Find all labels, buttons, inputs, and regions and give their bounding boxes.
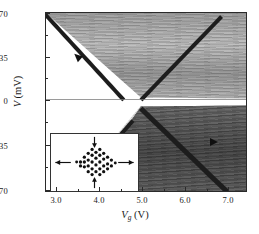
- y-axis-title: V (mV): [12, 57, 23, 127]
- x-tick-3: [56, 187, 57, 192]
- zero-bias-line: [46, 99, 246, 100]
- x-axis-subscript: g: [128, 213, 132, 222]
- y-tick-minor-2: [45, 78, 48, 79]
- y-tick-n35: [45, 145, 50, 146]
- y-tick-label-35: 35: [0, 53, 8, 63]
- x-tick-minor-3: [164, 189, 165, 192]
- y-axis-unit: (mV): [12, 76, 23, 99]
- y-tick-minor-3: [45, 122, 48, 123]
- y-tick-minor-4: [45, 167, 48, 168]
- x-tick-4: [99, 187, 100, 192]
- figure-panel: 70 35 0 -35 -70 3.0 4.0 5.0 6.0 7.0 V (m…: [0, 0, 259, 234]
- y-axis-symbol: V: [12, 101, 23, 107]
- x-axis-title: Vg (V): [95, 209, 175, 222]
- x-tick-label-4: 4.0: [84, 195, 114, 205]
- y-tick-0: [45, 100, 50, 101]
- x-tick-label-5: 5.0: [127, 195, 157, 205]
- x-tick-label-3: 3.0: [41, 195, 71, 205]
- x-tick-label-7: 7.0: [213, 195, 243, 205]
- nanoparticle-schematic-icon: [51, 134, 138, 191]
- y-tick-label-0: 0: [0, 96, 8, 106]
- lower-arrow-marker-icon: [210, 138, 218, 146]
- nanoparticle-inset: [50, 133, 139, 192]
- x-tick-label-6: 6.0: [170, 195, 200, 205]
- x-tick-7: [228, 187, 229, 192]
- y-tick-label-70: 70: [0, 9, 8, 19]
- x-tick-minor-1: [78, 189, 79, 192]
- y-tick-label-n70: -70: [0, 186, 8, 196]
- y-tick-70: [45, 13, 50, 14]
- y-tick-n70: [45, 190, 50, 191]
- y-tick-label-n35: -35: [0, 141, 8, 151]
- y-tick-minor-1: [45, 35, 48, 36]
- y-tick-35: [45, 57, 50, 58]
- x-tick-minor-2: [121, 189, 122, 192]
- x-tick-5: [142, 187, 143, 192]
- x-tick-minor-4: [207, 189, 208, 192]
- x-axis-unit: (V): [134, 209, 149, 220]
- x-tick-6: [185, 187, 186, 192]
